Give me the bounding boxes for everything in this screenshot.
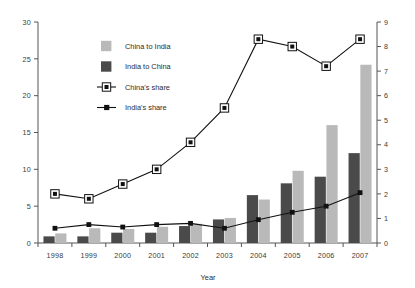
marker-open-square-core xyxy=(87,197,91,201)
right-axis-tick-label: 1 xyxy=(384,214,388,223)
bar-india-to-china xyxy=(213,219,224,243)
legend-swatch-china-to-india xyxy=(101,41,111,51)
left-axis-tick-label: 15 xyxy=(23,128,31,137)
right-axis-tick-label: 6 xyxy=(384,91,388,100)
right-axis-tick-label: 3 xyxy=(384,165,388,174)
marker-open-square-core xyxy=(121,182,125,186)
bar-china-to-india xyxy=(293,171,304,243)
right-axis-tick-label: 9 xyxy=(384,18,388,27)
marker-filled-square xyxy=(154,222,159,227)
left-axis-tick-label: 10 xyxy=(23,165,31,174)
legend-swatch-india-to-china xyxy=(101,61,111,71)
marker-filled-square xyxy=(86,222,91,227)
marker-filled-square xyxy=(120,225,125,230)
right-axis-tick-label: 4 xyxy=(384,140,388,149)
marker-open-square-core xyxy=(324,64,328,68)
legend-item-label: China's share xyxy=(125,83,170,92)
legend-marker-filled-square xyxy=(104,105,109,110)
right-axis-tick-label: 5 xyxy=(384,116,388,125)
marker-filled-square xyxy=(256,217,261,222)
bar-india-to-china xyxy=(77,236,88,243)
bar-india-to-china xyxy=(111,233,122,243)
bar-india-to-china xyxy=(145,233,156,243)
bar-china-to-india xyxy=(326,125,337,243)
x-axis-tick-label: 2007 xyxy=(352,251,369,260)
right-axis-tick-label: 2 xyxy=(384,190,388,199)
right-axis-tick-label: 8 xyxy=(384,42,388,51)
legend-item[interactable]: China's share xyxy=(97,83,170,92)
bar-india-to-china xyxy=(315,177,326,243)
x-axis-tick-label: 2005 xyxy=(284,251,301,260)
left-axis-tick-label: 30 xyxy=(23,18,31,27)
x-axis-tick-label: 1998 xyxy=(47,251,64,260)
left-axis-tick-label: 20 xyxy=(23,91,31,100)
right-axis-tick-label: 7 xyxy=(384,67,388,76)
legend-item-label: India's share xyxy=(125,103,167,112)
marker-open-square-core xyxy=(222,106,226,110)
marker-filled-square xyxy=(290,210,295,215)
x-axis-tick-label: 2003 xyxy=(216,251,233,260)
bar-india-to-china xyxy=(43,236,54,243)
bar-china-to-india xyxy=(89,228,100,243)
bar-china-to-india xyxy=(55,233,66,243)
marker-filled-square xyxy=(358,190,363,195)
bar-china-to-india xyxy=(157,227,168,243)
legend-marker-open-square-core xyxy=(105,85,109,89)
right-axis-tick-label: 0 xyxy=(384,239,388,248)
x-axis-tick-label: 2001 xyxy=(148,251,165,260)
x-axis-tick-label: 1999 xyxy=(80,251,97,260)
bar-india-to-china xyxy=(349,153,360,243)
left-axis-tick-label: 5 xyxy=(27,202,31,211)
legend-item-label: India to China xyxy=(125,62,171,71)
marker-open-square-core xyxy=(290,45,294,49)
x-axis-title: Year xyxy=(201,273,216,282)
bar-china-to-india xyxy=(191,224,202,243)
marker-open-square-core xyxy=(256,37,260,41)
bar-china-to-india xyxy=(123,229,134,243)
left-axis-tick-label: 0 xyxy=(27,239,31,248)
marker-open-square-core xyxy=(189,140,193,144)
marker-open-square-core xyxy=(53,192,57,196)
marker-open-square-core xyxy=(358,37,362,41)
bar-china-to-india xyxy=(360,65,371,243)
x-axis-tick-label: 2006 xyxy=(318,251,335,260)
marker-open-square-core xyxy=(155,167,159,171)
legend-item-label: China to India xyxy=(125,42,171,51)
marker-filled-square xyxy=(188,221,193,226)
x-axis-tick-label: 2000 xyxy=(114,251,131,260)
x-axis-tick-label: 2002 xyxy=(182,251,199,260)
marker-filled-square xyxy=(324,204,329,209)
combo-bar-line-chart: 051015202530 0123456789 1998199920002001… xyxy=(0,0,415,288)
marker-filled-square xyxy=(53,226,58,231)
left-axis-tick-label: 25 xyxy=(23,55,31,64)
marker-filled-square xyxy=(222,226,227,231)
chart-container: 051015202530 0123456789 1998199920002001… xyxy=(0,0,415,288)
x-axis-tick-label: 2004 xyxy=(250,251,267,260)
bar-india-to-china xyxy=(179,226,190,243)
